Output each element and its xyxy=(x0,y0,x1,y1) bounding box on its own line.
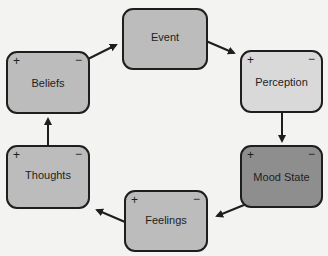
minus-sign: − xyxy=(75,53,82,67)
node-label: Feelings xyxy=(126,214,206,226)
arrow-mood-to-feelings xyxy=(217,205,244,216)
node-thoughts: + − Thoughts xyxy=(6,145,90,209)
node-label: Beliefs xyxy=(8,77,88,89)
plus-sign: + xyxy=(13,148,20,162)
node-label: Perception xyxy=(242,76,321,88)
node-perception: + − Perception xyxy=(240,50,323,113)
minus-sign: − xyxy=(308,147,315,161)
node-event: Event xyxy=(122,8,208,70)
plus-sign: + xyxy=(13,54,20,68)
node-label: Thoughts xyxy=(8,169,88,181)
minus-sign: − xyxy=(193,192,200,206)
node-label: Event xyxy=(124,31,206,43)
node-mood-state: + − Mood State xyxy=(240,145,323,208)
node-feelings: + − Feelings xyxy=(124,190,208,252)
minus-sign: − xyxy=(75,147,82,161)
plus-sign: + xyxy=(247,148,254,162)
arrow-feelings-to-thoughts xyxy=(97,210,125,222)
plus-sign: + xyxy=(131,193,138,207)
plus-sign: + xyxy=(247,53,254,67)
minus-sign: − xyxy=(308,52,315,66)
arrow-beliefs-to-event xyxy=(86,45,116,60)
node-beliefs: + − Beliefs xyxy=(6,51,90,114)
arrow-event-to-perception xyxy=(206,41,234,53)
node-label: Mood State xyxy=(242,171,321,183)
